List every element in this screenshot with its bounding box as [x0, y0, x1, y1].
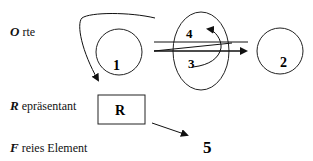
representative-box: R	[98, 95, 145, 124]
ellipse-label-3: 3	[188, 56, 195, 71]
circle-node-1-label: 1	[113, 58, 120, 73]
arrow-to-free-element	[152, 123, 187, 135]
diagram-canvas: 1 4 3 2 R 5	[0, 0, 313, 161]
curved-arrow-3-to-4	[193, 29, 221, 67]
free-element-label: 5	[203, 138, 212, 157]
circle-node-1: 1	[96, 29, 142, 75]
representative-box-label: R	[115, 103, 126, 118]
ellipse-label-4: 4	[186, 26, 193, 41]
circle-node-2: 2	[257, 28, 303, 74]
circle-node-2-label: 2	[280, 55, 287, 70]
